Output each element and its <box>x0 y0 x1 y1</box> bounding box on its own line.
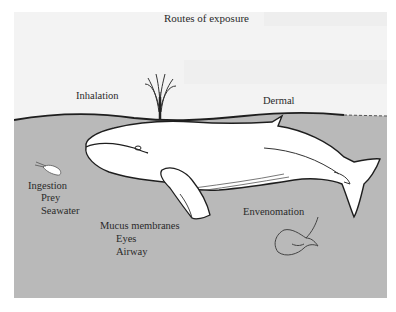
label-ingestion: Ingestion <box>28 180 67 192</box>
label-ingestion-prey: Prey <box>41 192 60 204</box>
label-envenomation: Envenomation <box>243 206 304 218</box>
label-ingestion-seawater: Seawater <box>41 205 79 217</box>
whale-illustration <box>14 12 387 298</box>
label-dermal: Dermal <box>263 95 295 107</box>
routes-of-exposure-figure: ​ <box>14 12 387 298</box>
blowhole-spout-icon <box>145 74 176 120</box>
label-mucus-membranes: Mucus membranes <box>100 220 180 232</box>
label-inhalation: Inhalation <box>76 90 119 102</box>
label-mucus-eyes: Eyes <box>116 233 136 245</box>
label-mucus-airway: Airway <box>116 246 148 258</box>
figure-title: Routes of exposure <box>164 12 249 24</box>
